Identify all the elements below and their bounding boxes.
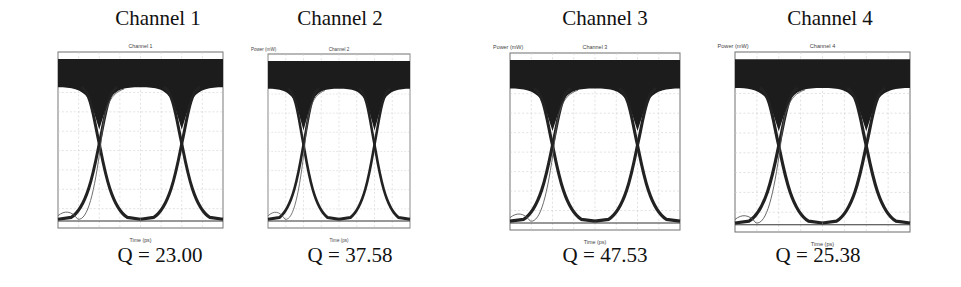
channel-1-eye-plot: Channel 1 Time (ps) [58,43,223,243]
channel-1-xlabel: Time (ps) [129,237,151,243]
channel-3-ylabel: Power (mW) [493,44,523,50]
channel-3-inner-title: Channel 3 [583,44,608,50]
channel-2-ylabel: Power (mW) [251,45,277,52]
channel-4-inner-title: Channel 4 [810,43,835,49]
eye-diagrams: Channel 1 Time (ps) Power (mW) Channel 2… [0,0,961,287]
channel-2-eye-plot: Power (mW) Channel 2 Time (ps) [251,45,410,243]
channel-3-eye-plot: Power (mW) Channel 3 Time (ps) [493,44,680,245]
channel-3-xlabel: Time (ps) [584,239,607,245]
channel-2-xlabel: Time (ps) [329,236,348,243]
channel-1-inner-title: Channel 1 [129,43,153,49]
channel-4-ylabel: Power (mW) [718,43,749,49]
channel-2-inner-title: Channel 2 [329,45,350,52]
channel-4-eye-plot: Power (mW) Channel 4 Time (ps) [718,43,911,247]
channel-4-xlabel: Time (ps) [811,241,835,247]
